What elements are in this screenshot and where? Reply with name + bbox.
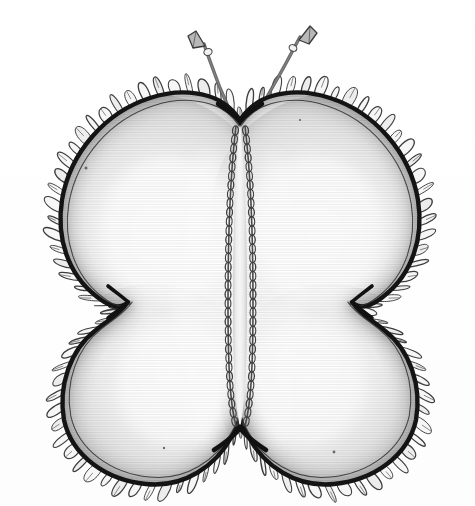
butterfly-pincushion-drawing <box>0 0 475 506</box>
illustration-canvas: A black-and-white pen drawing of a plump… <box>0 0 475 506</box>
